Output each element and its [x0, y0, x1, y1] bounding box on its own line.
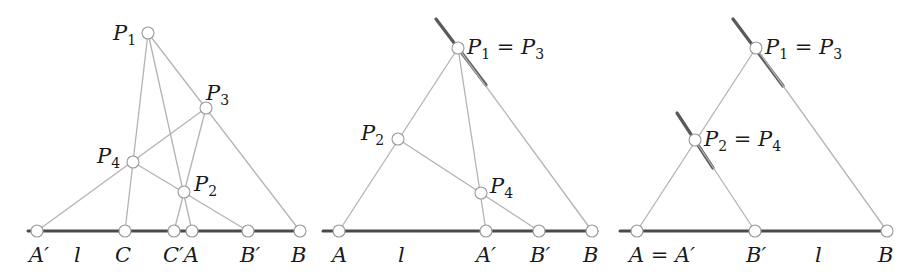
segment-p1-b — [148, 33, 300, 231]
label-p2-eq-p4: P2 = P4 — [703, 127, 781, 154]
panel-3: P1 = P3 P2 = P4 A = A′ B′ l B — [620, 19, 893, 267]
segment-p1-aprime — [458, 48, 486, 231]
segment-p2-bprime — [398, 139, 539, 231]
point-bprime — [242, 225, 254, 237]
label-p2: P2 — [193, 172, 217, 199]
point-b — [881, 225, 893, 237]
label-line-l: l — [815, 243, 822, 267]
point-a — [333, 225, 345, 237]
point-b — [294, 225, 306, 237]
point-b — [586, 225, 598, 237]
point-p2 — [178, 186, 190, 198]
label-b: B — [290, 243, 306, 267]
point-p2-p4 — [689, 134, 701, 146]
point-bprime — [533, 225, 545, 237]
label-bprime: B′ — [239, 243, 260, 267]
segment-p1-c — [125, 33, 148, 231]
point-c — [119, 225, 131, 237]
label-c: C — [115, 243, 131, 267]
projective-geometry-figure: P1 P3 P4 P2 A′ l C C′A B′ B P1 = P3 P2 P… — [0, 0, 922, 279]
panel-1: P1 P3 P4 P2 A′ l C C′A B′ B — [27, 21, 306, 267]
point-p4 — [475, 187, 487, 199]
label-p4: P4 — [96, 144, 120, 171]
point-p1 — [142, 27, 154, 39]
segment-p4-bprime — [133, 162, 248, 231]
label-bprime: B′ — [745, 243, 766, 267]
label-aprime: A′ — [474, 243, 496, 267]
label-p4: P4 — [489, 174, 513, 201]
point-aprime — [480, 225, 492, 237]
label-bprime: B′ — [529, 243, 550, 267]
label-a: A — [330, 243, 347, 267]
point-cprime — [168, 225, 180, 237]
label-cprime-a: C′A — [163, 243, 199, 267]
point-aprime — [31, 225, 43, 237]
point-p4 — [127, 156, 139, 168]
label-aprime: A′ — [27, 243, 49, 267]
label-p1-eq-p3: P1 = P3 — [764, 35, 842, 62]
label-p2: P2 — [360, 121, 384, 148]
label-b: B — [877, 243, 893, 267]
label-a-eq-aprime: A = A′ — [627, 243, 695, 267]
point-p1-p3 — [452, 42, 464, 54]
label-b: B — [582, 243, 598, 267]
label-line-l: l — [398, 243, 405, 267]
segment-p1-b — [458, 48, 592, 231]
point-p2 — [392, 133, 404, 145]
point-bprime — [749, 225, 761, 237]
label-line-l: l — [74, 243, 81, 267]
panel-2: P1 = P3 P2 P4 A l A′ B′ B — [323, 19, 598, 267]
point-a — [186, 225, 198, 237]
label-p1-eq-p3: P1 = P3 — [466, 35, 544, 62]
point-a-aprime — [631, 225, 643, 237]
point-p1-p3 — [750, 42, 762, 54]
label-p1: P1 — [112, 21, 136, 48]
label-p3: P3 — [205, 81, 229, 108]
segment-p3-aprime — [37, 108, 206, 231]
